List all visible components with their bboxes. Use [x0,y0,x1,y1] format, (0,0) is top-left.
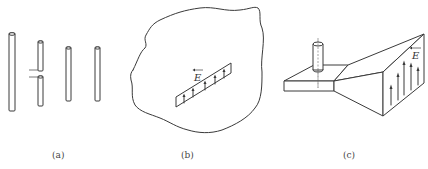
caption-b: (b) [181,150,194,160]
wire-3 [66,47,71,101]
antenna-types-figure: E [0,0,428,169]
panel-b-slot-aperture: E [131,7,264,132]
waveguide-front [284,81,334,91]
caption-c: (c) [343,150,355,160]
dipole-lower-arm [38,76,43,106]
dipole-upper-arm [38,41,43,71]
wire-4 [95,47,100,101]
straight-wire [9,33,15,111]
panel-a-wire-antennas [9,33,100,111]
panel-c-horn-antenna: E [284,34,424,116]
svg-text:E: E [411,50,420,61]
caption-a: (a) [52,150,64,160]
svg-text:E: E [193,72,202,83]
